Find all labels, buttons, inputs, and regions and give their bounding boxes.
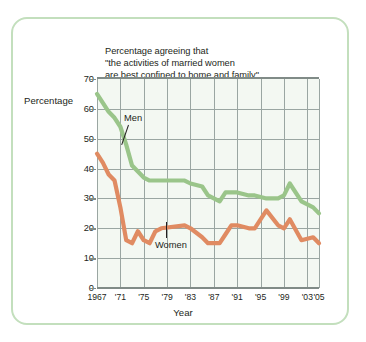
x-tick-label: '87 (208, 292, 219, 302)
y-tick-mark (90, 109, 96, 110)
x-tick-label: '05 (313, 292, 324, 302)
gridline-vertical (319, 79, 320, 288)
x-tick-label: '99 (278, 292, 289, 302)
y-tick-mark (90, 198, 96, 199)
y-tick-mark (90, 169, 96, 170)
line-men (97, 94, 319, 213)
y-tick-mark (90, 288, 96, 289)
annotation-women-leader (166, 222, 167, 238)
x-tick-label: '83 (185, 292, 196, 302)
x-tick-label: '03 (302, 292, 313, 302)
chart-title: Percentage agreeing that "the activities… (105, 45, 355, 81)
series-lines (97, 79, 319, 288)
y-tick-mark (90, 139, 96, 140)
x-axis-label: Year (0, 307, 366, 318)
annotation-men: Men (124, 113, 142, 123)
y-axis-ticks: 010203040506070 (64, 79, 94, 288)
line-women (97, 154, 319, 244)
y-tick-mark (90, 258, 96, 259)
annotation-women: Women (155, 240, 187, 250)
x-tick-label: 1967 (87, 292, 106, 302)
y-tick-mark (90, 228, 96, 229)
y-tick-mark (90, 79, 96, 80)
x-tick-label: '71 (115, 292, 126, 302)
x-tick-label: '91 (232, 292, 243, 302)
x-tick-label: '79 (161, 292, 172, 302)
x-tick-label: '75 (138, 292, 149, 302)
x-tick-label: '95 (255, 292, 266, 302)
